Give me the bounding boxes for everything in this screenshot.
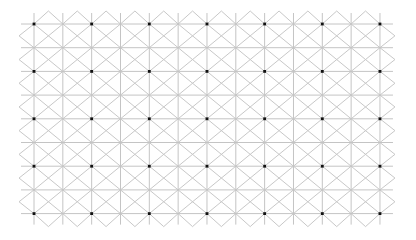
edge-cap-diagonal bbox=[19, 202, 34, 214]
edge-cap-diagonal bbox=[48, 11, 62, 24]
edge-cap-diagonal bbox=[19, 83, 34, 95]
edge-cap-diagonal bbox=[308, 11, 322, 24]
black-dot bbox=[379, 23, 382, 26]
edge-cap-diagonal bbox=[77, 11, 91, 24]
black-dot bbox=[321, 117, 324, 120]
edge-cap-diagonal bbox=[48, 214, 62, 227]
black-dot bbox=[148, 212, 151, 215]
edge-cap-diagonal bbox=[380, 154, 395, 166]
edge-cap-diagonal bbox=[293, 11, 307, 24]
edge-cap-diagonal bbox=[351, 214, 365, 227]
edge-cap-diagonal bbox=[19, 95, 34, 107]
edge-cap-diagonal bbox=[265, 11, 279, 24]
black-dot bbox=[206, 70, 209, 73]
edge-cap-diagonal bbox=[380, 48, 395, 60]
edge-cap-diagonal bbox=[19, 131, 34, 143]
black-dot bbox=[33, 117, 36, 120]
edge-cap-diagonal bbox=[135, 11, 149, 24]
black-dot bbox=[379, 70, 382, 73]
black-dot bbox=[206, 117, 209, 120]
edge-cap-diagonal bbox=[250, 11, 264, 24]
black-dot bbox=[321, 70, 324, 73]
edge-cap-diagonal bbox=[63, 11, 77, 24]
edge-cap-diagonal bbox=[19, 166, 34, 178]
black-dot bbox=[90, 23, 93, 26]
edge-cap-diagonal bbox=[19, 71, 34, 83]
edge-cap-diagonal bbox=[366, 214, 380, 227]
black-dot bbox=[263, 165, 266, 168]
edge-cap-diagonal bbox=[164, 11, 178, 24]
edge-cap-diagonal bbox=[106, 214, 120, 227]
black-dot bbox=[263, 70, 266, 73]
edge-cap-diagonal bbox=[293, 214, 307, 227]
black-dot bbox=[33, 165, 36, 168]
black-dot bbox=[321, 212, 324, 215]
black-dot bbox=[263, 23, 266, 26]
edge-cap-diagonal bbox=[193, 214, 207, 227]
black-dot bbox=[148, 70, 151, 73]
edge-cap-diagonal bbox=[19, 24, 34, 36]
edge-cap-diagonal bbox=[380, 107, 395, 119]
edge-cap-diagonal bbox=[135, 214, 149, 227]
edge-cap-diagonal bbox=[221, 214, 235, 227]
edge-cap-diagonal bbox=[19, 190, 34, 202]
edge-cap-diagonal bbox=[279, 11, 293, 24]
edge-cap-diagonal bbox=[19, 48, 34, 60]
edge-cap-diagonal bbox=[77, 214, 91, 227]
black-dot bbox=[379, 165, 382, 168]
edge-cap-diagonal bbox=[19, 36, 34, 48]
black-dot bbox=[379, 212, 382, 215]
black-dot bbox=[263, 117, 266, 120]
edge-cap-diagonal bbox=[106, 11, 120, 24]
black-dot bbox=[206, 23, 209, 26]
black-dot bbox=[206, 212, 209, 215]
edge-cap-diagonal bbox=[250, 214, 264, 227]
black-dot bbox=[321, 23, 324, 26]
edge-cap-diagonal bbox=[279, 214, 293, 227]
edge-cap-diagonal bbox=[337, 214, 351, 227]
edge-cap-diagonal bbox=[193, 11, 207, 24]
edge-cap-diagonal bbox=[207, 11, 221, 24]
edge-cap-diagonal bbox=[236, 214, 250, 227]
black-dot bbox=[33, 23, 36, 26]
edge-cap-diagonal bbox=[380, 131, 395, 143]
edge-cap-diagonal bbox=[178, 11, 192, 24]
edge-cap-diagonal bbox=[92, 11, 106, 24]
edge-cap-diagonal bbox=[19, 178, 34, 190]
black-dot bbox=[90, 165, 93, 168]
edge-cap-diagonal bbox=[380, 71, 395, 83]
black-dot bbox=[206, 165, 209, 168]
edge-cap-diagonal bbox=[236, 11, 250, 24]
edge-cap-diagonal bbox=[63, 214, 77, 227]
black-dot bbox=[90, 117, 93, 120]
edge-cap-diagonal bbox=[366, 11, 380, 24]
edge-cap-diagonal bbox=[322, 214, 336, 227]
edge-cap-diagonal bbox=[380, 95, 395, 107]
edge-cap-diagonal bbox=[351, 11, 365, 24]
edge-cap-diagonal bbox=[120, 11, 134, 24]
edge-cap-diagonal bbox=[308, 214, 322, 227]
black-dot bbox=[33, 212, 36, 215]
edge-cap-diagonal bbox=[19, 107, 34, 119]
black-dot bbox=[148, 165, 151, 168]
edge-cap-diagonal bbox=[19, 60, 34, 72]
black-dot bbox=[263, 212, 266, 215]
edge-cap-diagonal bbox=[337, 11, 351, 24]
edge-cap-diagonal bbox=[19, 143, 34, 155]
edge-cap-diagonal bbox=[380, 190, 395, 202]
edge-cap-diagonal bbox=[34, 11, 48, 24]
edge-cap-diagonal bbox=[178, 214, 192, 227]
edge-cap-diagonal bbox=[265, 214, 279, 227]
black-dot bbox=[33, 70, 36, 73]
edge-cap-diagonal bbox=[380, 24, 395, 36]
edge-cap-diagonal bbox=[149, 214, 163, 227]
edge-cap-diagonal bbox=[380, 83, 395, 95]
edge-cap-diagonal bbox=[380, 143, 395, 155]
edge-cap-diagonal bbox=[19, 154, 34, 166]
edge-cap-diagonal bbox=[120, 214, 134, 227]
black-dot bbox=[148, 117, 151, 120]
edge-cap-diagonal bbox=[207, 214, 221, 227]
black-dot bbox=[148, 23, 151, 26]
illusion-grid-figure bbox=[0, 0, 416, 240]
edge-cap-diagonal bbox=[221, 11, 235, 24]
